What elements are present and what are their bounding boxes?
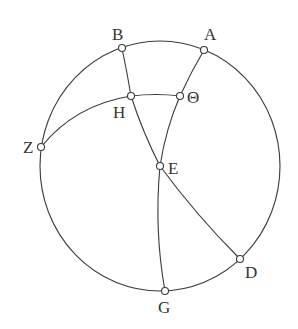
label-e: E [168,159,178,178]
label-z: Z [23,138,33,157]
label-h: H [113,103,125,122]
label-theta: Θ [187,88,199,107]
geometry-diagram: B A Θ H Z E D G [0,0,298,329]
arc-z-h-theta [41,95,180,148]
point-g [162,288,169,295]
label-b: B [112,25,123,44]
label-g: G [158,298,170,317]
point-b [119,45,126,52]
point-theta [177,93,184,100]
arc-b-h-e-d [122,48,240,259]
point-d [237,256,244,263]
point-h [128,93,135,100]
point-z [38,144,45,151]
point-e [157,163,164,170]
arc-a-theta-e-g [158,50,204,291]
label-d: D [245,263,257,282]
label-a: A [204,25,217,44]
point-a [201,47,208,54]
